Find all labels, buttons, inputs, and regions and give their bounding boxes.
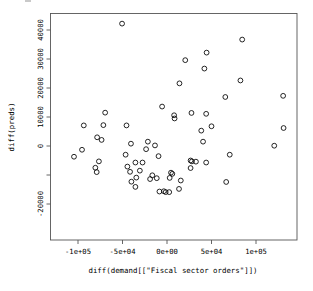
y-tick-label-0: 0 bbox=[36, 144, 45, 148]
x-tick-label-1e05: 1e+05 bbox=[245, 247, 267, 256]
x-tick-label-5e04: 5e+04 bbox=[201, 247, 223, 256]
y-tick-label-30000: 30000 bbox=[36, 48, 45, 70]
x-tick-label-minus1e05: -1e+05 bbox=[65, 247, 91, 256]
y-tick-label-40000: 40000 bbox=[36, 19, 45, 41]
y-tick-label-10000: 10000 bbox=[36, 106, 45, 128]
x-tick-label-minus5e04: -5e+04 bbox=[110, 247, 136, 256]
scatter-plot-figure: 40000 30000 20000 10000 0 -20000 -1e+05 … bbox=[0, 0, 313, 291]
top-crop-artifact bbox=[25, 0, 31, 2]
y-tick-label-minus20000: -20000 bbox=[36, 191, 45, 217]
x-tick-label-0e00: 0e+00 bbox=[156, 247, 178, 256]
plot-canvas: 40000 30000 20000 10000 0 -20000 -1e+05 … bbox=[0, 0, 313, 291]
y-axis-title: diff(preds) bbox=[7, 103, 16, 152]
y-tick-label-20000: 20000 bbox=[36, 77, 45, 99]
x-axis-title: diff(demand[["Fiscal sector orders"]]) bbox=[88, 266, 257, 275]
